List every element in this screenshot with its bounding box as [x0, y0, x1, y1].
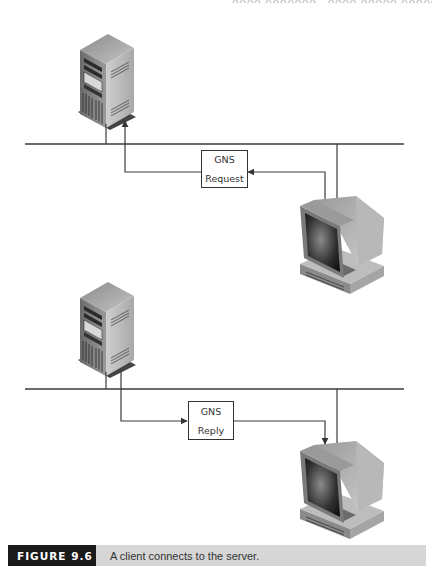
- crt-workstation-icon: [300, 196, 384, 294]
- gns-request-box: GNS Request: [201, 150, 248, 188]
- server-tower-icon: [78, 282, 136, 378]
- reply-arrow: [121, 370, 187, 421]
- server-tower-icon: [78, 34, 136, 130]
- message-line1: GNS: [214, 150, 235, 169]
- figure-caption: FIGURE 9.6 A client connects to the serv…: [8, 545, 426, 566]
- figure-label: FIGURE 9.6: [8, 545, 96, 566]
- caption-text: A client connects to the server.: [96, 550, 259, 562]
- message-line1: GNS: [201, 402, 222, 421]
- gns-reply-box: GNS Reply: [188, 401, 234, 440]
- request-arrow: [125, 121, 201, 172]
- message-line2: Request: [205, 169, 244, 188]
- network-diagram: [0, 0, 437, 577]
- crt-workstation-icon: [300, 441, 384, 539]
- message-line2: Reply: [198, 421, 224, 440]
